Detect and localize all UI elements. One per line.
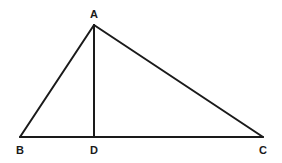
vertex-label-d: D <box>90 144 98 156</box>
vertex-label-c: C <box>259 144 267 156</box>
vertex-label-b: B <box>16 144 24 156</box>
segment-ab <box>20 25 94 137</box>
triangle-svg: A B D C <box>0 0 282 163</box>
triangle-diagram: A B D C <box>0 0 282 163</box>
vertex-label-a: A <box>90 8 98 20</box>
segment-ac <box>94 25 263 137</box>
